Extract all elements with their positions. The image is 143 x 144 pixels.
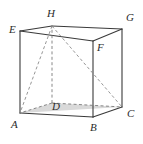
diagonal-HA [20, 26, 52, 113]
vertex-label-F: F [97, 42, 104, 53]
cube-figure: E H G F A D C B [0, 0, 143, 144]
vertex-label-C: C [127, 108, 134, 119]
cube-diagram-svg [0, 0, 143, 144]
vertex-label-A: A [11, 119, 18, 130]
edge-HG [52, 26, 122, 29]
edge-FE [20, 31, 93, 41]
vertex-label-H: H [47, 8, 55, 19]
diagonal-HC [52, 26, 122, 107]
cube-hidden-edges [20, 26, 122, 113]
apex-diagonals-from-h [20, 26, 122, 113]
vertex-label-E: E [9, 24, 16, 35]
edge-AB [20, 113, 93, 117]
edge-EH [20, 26, 52, 31]
vertex-label-D: D [52, 101, 60, 112]
cube-solid-edges [20, 26, 122, 117]
vertex-label-B: B [90, 122, 97, 133]
vertex-label-G: G [126, 12, 134, 23]
edge-GF [93, 29, 122, 41]
edge-BC [93, 107, 122, 117]
